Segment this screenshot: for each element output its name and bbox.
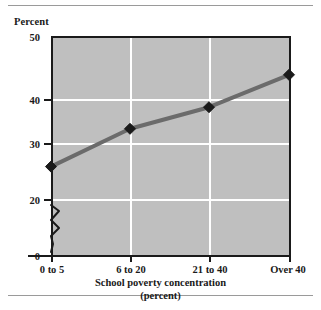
- y-tick-mark-30: [44, 143, 52, 145]
- figure-top-rule: [8, 5, 313, 6]
- y-tick-label-0: 0: [14, 251, 40, 262]
- y-axis-title: Percent: [14, 16, 49, 27]
- y-tick-label-40: 40: [14, 95, 40, 106]
- gridline-y-30: [52, 143, 290, 145]
- y-tick-label-20: 20: [14, 195, 40, 206]
- gridline-x-6-to-20: [130, 37, 132, 255]
- gridline-y-40: [52, 99, 290, 101]
- x-axis-title: School poverty concentration (percent): [0, 277, 321, 302]
- x-tick-mark-21-to-40: [209, 255, 211, 262]
- x-tick-label-over-40: Over 40: [270, 264, 306, 275]
- x-axis-title-line2: (percent): [0, 290, 321, 303]
- x-tick-label-0-to-5: 0 to 5: [40, 264, 65, 275]
- x-tick-label-6-to-20: 6 to 20: [116, 264, 146, 275]
- x-tick-mark-over-40: [289, 255, 291, 262]
- gridline-x-21-to-40: [209, 37, 211, 255]
- y-tick-label-50: 50: [14, 32, 40, 43]
- plot-border-right: [289, 36, 291, 256]
- x-tick-label-21-to-40: 21 to 40: [193, 264, 228, 275]
- plot-border-left: [51, 36, 53, 256]
- y-tick-mark-40: [44, 99, 52, 101]
- x-tick-mark-0-to-5: [51, 255, 53, 262]
- gridline-y-20: [52, 199, 290, 201]
- chart-figure: Percent 50 40 30 20 0 0 to 5 6 to 20 21 …: [0, 0, 321, 310]
- x-axis-line: [28, 255, 291, 257]
- x-tick-mark-6-to-20: [130, 255, 132, 262]
- x-axis-title-line1: School poverty concentration: [0, 277, 321, 290]
- y-tick-mark-20: [44, 199, 52, 201]
- y-tick-label-30: 30: [14, 139, 40, 150]
- plot-area: [52, 37, 290, 255]
- plot-border-top: [51, 36, 291, 38]
